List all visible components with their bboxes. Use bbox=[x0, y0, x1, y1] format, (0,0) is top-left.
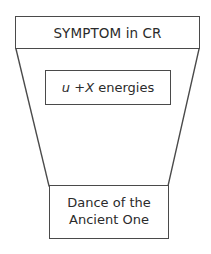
energies-x-symbol: X bbox=[85, 80, 94, 95]
energies-plus-sign: + bbox=[74, 80, 85, 95]
node-symptom-in-cr: SYMPTOM in CR bbox=[15, 16, 200, 49]
node-dance-of-the-ancient-one: Dance of the Ancient One bbox=[49, 185, 169, 239]
node-symptom-label: SYMPTOM in CR bbox=[53, 25, 161, 41]
energies-u-symbol: u bbox=[62, 80, 70, 95]
node-energies: u +X energies bbox=[45, 70, 171, 105]
node-dance-label-line1: Dance of the bbox=[67, 195, 151, 212]
right-funnel-edge-line bbox=[168, 49, 199, 186]
node-energies-label: u +X energies bbox=[62, 80, 154, 95]
funnel-diagram: SYMPTOM in CR u +X energies Dance of the… bbox=[0, 0, 211, 254]
energies-suffix-label: energies bbox=[98, 80, 154, 95]
node-dance-label-line2: Ancient One bbox=[69, 212, 149, 229]
